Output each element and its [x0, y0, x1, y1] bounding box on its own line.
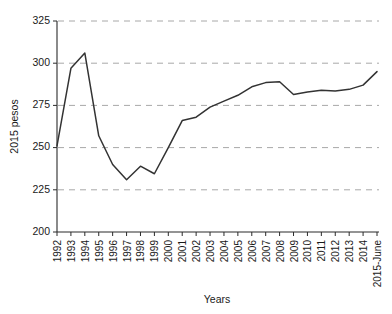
y-tick-label: 300: [32, 56, 50, 68]
x-axis-title: Years: [204, 293, 230, 305]
x-tick-label: 2009: [289, 240, 300, 263]
x-tick-label: 2004: [219, 240, 230, 263]
y-axis-tick-labels: 200225250275300325: [32, 14, 50, 237]
y-axis-title: 2015 pesos: [8, 99, 20, 153]
x-tick-label: 1999: [149, 240, 160, 263]
x-tick-label: 2005: [233, 240, 244, 263]
y-axis-ticks: [53, 21, 57, 232]
y-tick-label: 325: [32, 14, 50, 26]
y-tick-label: 275: [32, 98, 50, 110]
line-chart: 200225250275300325 199219931994199519961…: [0, 0, 392, 314]
x-tick-label: 2014: [358, 240, 369, 263]
x-tick-label: 2011: [316, 240, 327, 262]
y-tick-label: 225: [32, 183, 50, 195]
x-tick-label: 2001: [177, 240, 188, 263]
x-tick-label: 1997: [122, 240, 133, 263]
x-tick-label: 2008: [275, 240, 286, 263]
x-tick-label: 2000: [163, 240, 174, 263]
data-series-line: [57, 53, 377, 180]
x-tick-label: 2012: [330, 240, 341, 263]
x-tick-label: 2007: [261, 240, 272, 263]
gridlines: [58, 21, 379, 190]
chart-canvas: 200225250275300325 199219931994199519961…: [0, 0, 392, 314]
x-tick-label: 1995: [94, 240, 105, 263]
x-tick-label: 2015-June: [372, 240, 383, 288]
x-tick-label: 1994: [80, 240, 91, 263]
x-tick-label: 2006: [247, 240, 258, 263]
x-tick-label: 2002: [191, 240, 202, 263]
x-tick-label: 1996: [108, 240, 119, 263]
x-tick-label: 1993: [66, 240, 77, 263]
y-tick-label: 200: [32, 225, 50, 237]
x-tick-label: 2013: [344, 240, 355, 263]
y-tick-label: 250: [32, 140, 50, 152]
x-tick-label: 2010: [302, 240, 313, 263]
x-tick-label: 1998: [135, 240, 146, 263]
x-tick-label: 1992: [52, 240, 63, 263]
x-tick-label: 2003: [205, 240, 216, 263]
x-axis-tick-labels: 1992199319941995199619971998199920002001…: [52, 240, 383, 288]
x-axis-ticks: [57, 232, 377, 236]
